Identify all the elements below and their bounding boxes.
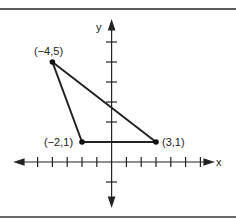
y-axis-up-arrow-icon bbox=[109, 21, 115, 30]
point-b-marker bbox=[79, 139, 85, 145]
y-axis-label: y bbox=[96, 21, 102, 33]
coordinate-plane: x y (−4,5) (−2,1) (3,1) bbox=[0, 0, 236, 219]
y-axis-down-arrow-icon bbox=[109, 197, 115, 206]
x-axis-right-arrow-icon bbox=[204, 159, 213, 165]
triangle bbox=[52, 62, 156, 142]
x-axis-label: x bbox=[216, 156, 222, 168]
x-axis-left-arrow-icon bbox=[15, 159, 24, 165]
point-c-marker bbox=[153, 139, 159, 145]
point-b-label: (−2,1) bbox=[44, 136, 73, 148]
y-axis bbox=[106, 21, 117, 206]
point-a-label: (−4,5) bbox=[34, 45, 63, 57]
point-c-label: (3,1) bbox=[162, 136, 185, 148]
x-axis bbox=[15, 157, 213, 167]
point-a-marker bbox=[50, 59, 56, 65]
